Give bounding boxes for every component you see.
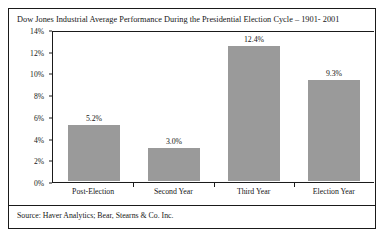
bar: [228, 46, 281, 181]
bar-slot: 5.2%: [54, 31, 134, 181]
bar-value-label: 5.2%: [54, 114, 134, 123]
bar-slot: 9.3%: [294, 31, 374, 181]
y-axis-tick-label: 4%: [34, 135, 44, 144]
x-axis-labels: Post-ElectionSecond YearThird YearElecti…: [53, 187, 374, 196]
chart-title: Dow Jones Industrial Average Performance…: [17, 15, 369, 24]
bar-slot: 3.0%: [134, 31, 214, 181]
bar-value-label: 12.4%: [214, 35, 294, 44]
plot-wrapper: 0%2%4%6%8%10%12%14% 5.2%3.0%12.4%9.3% Po…: [9, 31, 375, 203]
x-axis-category-label: Third Year: [214, 187, 294, 196]
y-axis-tick-label: 0%: [34, 179, 44, 188]
bar: [68, 125, 121, 181]
bar-slot: 12.4%: [214, 31, 294, 181]
y-axis-tick-label: 2%: [34, 157, 44, 166]
plot-area: 5.2%3.0%12.4%9.3%: [52, 31, 374, 183]
x-axis-category-label: Post-Election: [53, 187, 133, 196]
x-axis-category-label: Second Year: [133, 187, 213, 196]
x-axis-category-label: Election Year: [294, 187, 374, 196]
y-axis-tick-label: 12%: [30, 48, 44, 57]
bar: [148, 148, 201, 181]
y-axis-tick-label: 6%: [34, 113, 44, 122]
y-axis-tick-label: 8%: [34, 92, 44, 101]
source-divider: [9, 205, 375, 206]
y-axis-tick-label: 10%: [30, 70, 44, 79]
y-axis-tick-label: 14%: [30, 27, 44, 36]
bar: [308, 80, 361, 181]
source-note: Source: Haver Analytics; Bear, Stearns &…: [17, 211, 173, 220]
bar-value-label: 3.0%: [134, 137, 214, 146]
bar-series: 5.2%3.0%12.4%9.3%: [54, 31, 374, 181]
chart-figure: Dow Jones Industrial Average Performance…: [8, 8, 376, 229]
bar-value-label: 9.3%: [294, 69, 374, 78]
y-axis: 0%2%4%6%8%10%12%14%: [9, 31, 49, 183]
